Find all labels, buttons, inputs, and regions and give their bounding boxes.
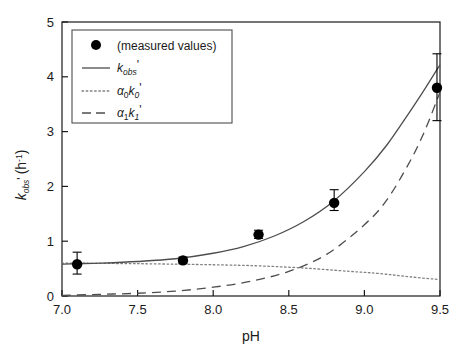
y-axis-title-units-open: (h [13, 162, 29, 174]
legend-k-subscript: obs [123, 67, 137, 77]
y-axis-title-units-close: ) [13, 150, 29, 155]
y-tick-label: 4 [47, 69, 54, 84]
x-axis-title: pH [242, 328, 260, 344]
legend-k0-prime: ' [139, 81, 141, 95]
x-tick-label: 7.5 [129, 302, 147, 317]
legend-label-measured-values: (measured values) [117, 39, 216, 53]
data-point-marker [432, 83, 442, 93]
legend-marker-icon [91, 40, 101, 50]
y-tick-label: 5 [47, 15, 54, 30]
legend: (measured values) kobs' α0k0' α1 [72, 30, 232, 123]
y-axis-title: kobs'(h-1) [13, 150, 31, 201]
y-axis-tick-labels: 012345 [47, 15, 54, 304]
data-point-marker [72, 259, 82, 269]
y-tick-label: 2 [47, 179, 54, 194]
svg-text:kobs'(h-1): kobs'(h-1) [13, 150, 31, 201]
legend-k1-prime: ' [139, 103, 141, 117]
data-point-marker [178, 255, 188, 265]
data-point-marker [329, 198, 339, 208]
x-axis-tick-labels: 7.07.58.08.59.09.5 [53, 302, 449, 317]
y-axis-title-subscript: obs [21, 179, 31, 193]
legend-k-prime: ' [137, 58, 139, 72]
y-tick-label: 1 [47, 234, 54, 249]
y-axis-title-prime: ' [15, 177, 29, 179]
x-tick-label: 7.0 [53, 302, 71, 317]
data-point-marker [253, 229, 263, 239]
data-point [178, 255, 188, 265]
x-tick-label: 8.0 [204, 302, 222, 317]
x-tick-label: 9.5 [431, 302, 449, 317]
figure-container: 012345 7.07.58.08.59.09.5 kobs'(h-1) pH … [0, 0, 457, 351]
y-tick-label: 3 [47, 124, 54, 139]
x-tick-label: 8.5 [280, 302, 298, 317]
data-point [253, 229, 263, 239]
ph-rate-constant-chart: 012345 7.07.58.08.59.09.5 kobs'(h-1) pH … [0, 0, 457, 351]
x-tick-label: 9.0 [355, 302, 373, 317]
